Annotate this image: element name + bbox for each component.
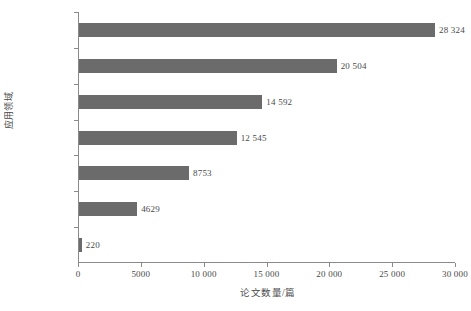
bar (79, 238, 82, 252)
bar (79, 59, 337, 73)
x-tick-label: 20 000 (299, 269, 359, 279)
bar-chart-figure: 应用领域 28 32420 50414 59212 54587534629220… (0, 0, 471, 311)
bar-row: 14 592 (79, 95, 292, 109)
y-tick-mark (74, 120, 78, 121)
bar-row: 20 504 (79, 59, 367, 73)
bar-row: 4629 (79, 202, 160, 216)
bar-value-label: 12 545 (241, 133, 267, 143)
y-tick-mark (74, 12, 78, 13)
bar (79, 166, 189, 180)
x-tick-mark (329, 263, 330, 267)
x-tick-label: 25 000 (362, 269, 422, 279)
x-tick-mark (392, 263, 393, 267)
x-tick-label: 10 000 (174, 269, 234, 279)
x-tick-mark (204, 263, 205, 267)
y-tick-mark (74, 227, 78, 228)
bar-value-label: 28 324 (439, 25, 465, 35)
x-tick-label: 0 (48, 269, 108, 279)
x-tick-label: 30 000 (425, 269, 471, 279)
bar-row: 220 (79, 238, 100, 252)
y-tick-mark (74, 191, 78, 192)
y-axis-title: 应用领域 (2, 71, 15, 151)
bar-value-label: 20 504 (341, 61, 367, 71)
x-tick-label: 15 000 (237, 269, 297, 279)
x-tick-mark (455, 263, 456, 267)
x-axis-title: 论文数量/篇 (78, 285, 458, 299)
bar-value-label: 8753 (193, 168, 212, 178)
x-tick-label: 5000 (111, 269, 171, 279)
x-tick-mark (141, 263, 142, 267)
bar-row: 28 324 (79, 23, 465, 37)
bar (79, 23, 435, 37)
bar-row: 12 545 (79, 131, 267, 145)
x-tick-mark (267, 263, 268, 267)
bar-value-label: 14 592 (266, 97, 292, 107)
bar-row: 8753 (79, 166, 212, 180)
x-tick-mark (78, 263, 79, 267)
bar (79, 202, 137, 216)
bar-value-label: 4629 (141, 204, 160, 214)
bar (79, 131, 237, 145)
y-tick-mark (74, 84, 78, 85)
plot-area: 28 32420 50414 59212 54587534629220 治疗病理… (78, 12, 455, 263)
y-tick-mark (74, 155, 78, 156)
bar (79, 95, 262, 109)
y-tick-mark (74, 48, 78, 49)
bar-value-label: 220 (86, 240, 100, 250)
